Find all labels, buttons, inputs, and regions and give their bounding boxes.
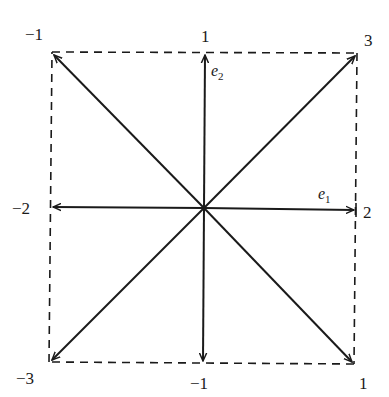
square-left-edge — [49, 52, 52, 362]
label-top-mid: 1 — [201, 27, 210, 46]
e1-subscript: 1 — [325, 193, 331, 205]
vector-to-top-right — [204, 56, 355, 208]
vector-e2-to-top-mid — [204, 55, 205, 208]
e2-base: e — [211, 62, 218, 79]
label-e2: e2 — [211, 62, 224, 82]
label-bottom-mid: −1 — [190, 374, 208, 393]
vector-to-mid-left — [53, 207, 204, 208]
label-mid-right: 2 — [363, 203, 372, 222]
label-e1: e1 — [318, 185, 331, 205]
vector-diagram: −1 1 3 −2 2 −3 −1 1 e2 e1 — [0, 0, 389, 397]
label-bottom-right: 1 — [359, 374, 368, 393]
e2-subscript: 2 — [218, 70, 224, 82]
label-mid-left: −2 — [12, 199, 30, 218]
vector-to-top-left — [54, 55, 204, 208]
vector-to-bottom-mid — [203, 208, 204, 361]
vector-to-bottom-left — [52, 208, 204, 360]
square-bottom-edge — [49, 362, 354, 364]
e1-base: e — [318, 185, 325, 202]
square-top-edge — [52, 52, 357, 53]
vectors — [52, 55, 355, 362]
label-top-right: 3 — [364, 31, 373, 50]
label-top-left: −1 — [25, 25, 43, 44]
label-bottom-left: −3 — [16, 369, 34, 388]
vector-to-bottom-right — [204, 208, 352, 362]
vector-e1-to-mid-right — [204, 208, 354, 210]
